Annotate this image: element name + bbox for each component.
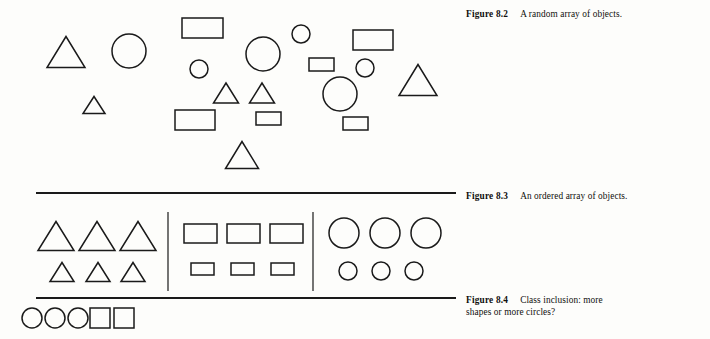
triangle-shape: [121, 263, 145, 282]
circle-shape: [22, 308, 42, 328]
triangle-shape: [83, 97, 105, 114]
rectangle-shape: [353, 30, 393, 50]
circle-shape: [68, 308, 88, 328]
circle-shape: [112, 34, 146, 68]
circle-shape: [246, 37, 280, 71]
rectangle-shape: [191, 263, 214, 275]
triangle-shape: [47, 37, 85, 68]
circle-shape: [292, 25, 310, 43]
circle-shape: [339, 262, 357, 280]
circle-shape: [190, 60, 208, 78]
class-inclusion-shapes: [22, 308, 134, 328]
rectangle-shape: [175, 110, 215, 130]
triangle-shape: [120, 222, 156, 251]
random-array-shapes: [47, 18, 437, 169]
circle-shape: [372, 262, 390, 280]
triangle-shape: [86, 263, 110, 282]
rectangle-shape: [114, 308, 134, 328]
triangle-shape: [226, 142, 259, 169]
rectangle-shape: [309, 58, 334, 71]
figure-label-8-2: Figure 8.2: [466, 9, 508, 19]
figure-page: Figure 8.2A random array of objects. Fig…: [0, 0, 710, 339]
circle-shape: [370, 218, 400, 248]
rectangle-shape: [271, 263, 294, 275]
circle-shape: [356, 59, 374, 77]
ordered-array-shapes: [38, 218, 441, 282]
rectangle-shape: [182, 18, 223, 38]
circle-shape: [323, 77, 357, 111]
rectangle-shape: [343, 117, 368, 130]
rectangle-shape: [256, 112, 281, 125]
rectangle-shape: [184, 224, 217, 243]
figure-caption-text-8-2: A random array of objects.: [520, 9, 622, 19]
triangle-shape: [38, 222, 74, 251]
figure-caption-8-4: Figure 8.4Class inclusion: more shapes o…: [466, 294, 626, 318]
circle-shape: [329, 218, 359, 248]
rectangle-shape: [270, 224, 303, 243]
figure-label-8-3: Figure 8.3: [466, 191, 508, 201]
figure-caption-8-3: Figure 8.3An ordered array of objects.: [466, 190, 627, 202]
figure-caption-text-8-3: An ordered array of objects.: [520, 191, 627, 201]
triangle-shape: [250, 83, 275, 103]
circle-shape: [411, 218, 441, 248]
figure-illustration-canvas: [0, 0, 710, 339]
triangle-shape: [79, 222, 115, 251]
rectangle-shape: [227, 224, 260, 243]
triangle-shape: [50, 263, 74, 282]
figure-caption-8-2: Figure 8.2A random array of objects.: [466, 8, 622, 20]
circle-shape: [405, 262, 423, 280]
circle-shape: [45, 308, 65, 328]
figure-label-8-4: Figure 8.4: [466, 295, 508, 305]
rectangle-shape: [90, 308, 110, 328]
triangle-shape: [399, 65, 437, 96]
rectangle-shape: [231, 263, 254, 275]
triangle-shape: [214, 83, 239, 103]
